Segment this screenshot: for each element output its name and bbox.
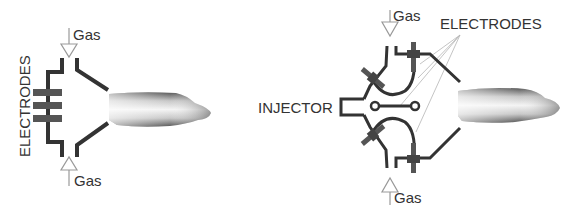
injector-label: INJECTOR (258, 99, 333, 116)
right-torch-diagram: Gas Gas ELECTRODES INJECTOR (258, 7, 560, 206)
plasma-jet-right (458, 88, 560, 123)
gas-label-bottom-right: Gas (394, 189, 422, 206)
center-rod-electrode (371, 102, 419, 110)
electrode-leader-lines (400, 35, 460, 132)
nozzle-wall-bottom (77, 123, 108, 157)
lower-nozzle-wall (396, 128, 460, 168)
injector-tube (341, 99, 364, 115)
upper-nozzle-wall (396, 46, 460, 82)
gas-label-top: Gas (73, 26, 101, 43)
gas-label-top-right: Gas (393, 7, 421, 24)
diagram-canvas: Gas Gas ELECTRODES G (0, 0, 575, 217)
electrodes-label-vertical: ELECTRODES (16, 55, 33, 157)
left-torch-diagram: Gas Gas ELECTRODES (16, 26, 211, 189)
electrode-stack (33, 89, 62, 122)
gas-label-bottom: Gas (74, 172, 102, 189)
electrodes-label: ELECTRODES (440, 15, 542, 32)
nozzle-wall-top (77, 58, 108, 90)
plasma-jet (109, 92, 211, 127)
insulator-lower-vertical (407, 143, 420, 173)
insulator-upper-vertical (407, 42, 420, 72)
